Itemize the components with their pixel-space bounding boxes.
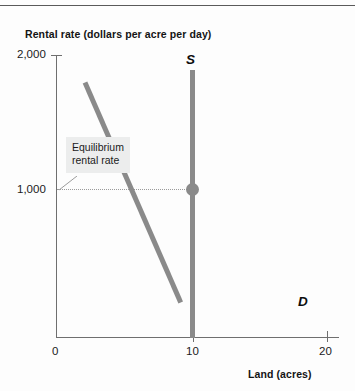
equilibrium-callout-box: Equilibrium rental rate [66, 137, 130, 173]
y-tick-label-2000: 2,000 [17, 48, 46, 60]
x-tick-20 [327, 331, 328, 342]
equilibrium-point-marker [186, 183, 199, 196]
supply-curve [190, 70, 195, 338]
callout-line-1: Equilibrium [72, 141, 124, 154]
demand-curve-label: D [298, 294, 308, 309]
x-tick-label-0: 0 [52, 345, 58, 357]
land-market-supply-demand-figure: Rental rate (dollars per acre per day) L… [0, 0, 355, 391]
x-tick-label-20: 20 [319, 345, 332, 357]
callout-line-2: rental rate [72, 154, 124, 167]
x-tick-label-10: 10 [186, 345, 199, 357]
supply-curve-label: S [186, 52, 195, 67]
callout-leader-line [59, 176, 78, 191]
x-axis-line [56, 337, 339, 338]
y-tick-2000 [51, 55, 62, 56]
y-tick-label-1000: 1,000 [17, 183, 46, 195]
y-axis-line [56, 55, 57, 338]
plot-area: 2,000 1,000 0 10 20 S D Equilibrium rent… [0, 0, 355, 391]
demand-curve [83, 82, 183, 304]
